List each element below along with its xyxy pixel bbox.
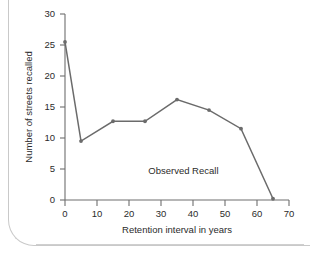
x-tick-label: 70	[284, 208, 295, 219]
data-point	[63, 40, 67, 44]
x-axis-tick-labels: 010203040506070	[62, 208, 294, 219]
y-tick-label: 10	[44, 132, 55, 143]
data-point	[271, 197, 275, 201]
data-point	[207, 108, 211, 112]
y-axis: 051015202530	[44, 8, 65, 205]
x-axis-title: Retention interval in years	[122, 224, 232, 235]
y-tick-label: 5	[50, 163, 55, 174]
x-tick-label: 30	[156, 208, 167, 219]
x-tick-label: 20	[124, 208, 135, 219]
x-axis-ticks	[65, 200, 289, 206]
data-point	[175, 98, 179, 102]
data-point	[143, 119, 147, 123]
y-tick-label: 15	[44, 101, 55, 112]
y-axis-title: Number of streets recalled	[23, 51, 34, 162]
y-tick-label: 0	[50, 194, 55, 205]
screenshot-root: 051015202530 010203040506070 Observed Re…	[0, 0, 310, 257]
chart-annotations: Observed Recall	[148, 165, 218, 176]
y-tick-label: 20	[44, 70, 55, 81]
chart-svg: 051015202530 010203040506070 Observed Re…	[0, 0, 310, 257]
x-axis: 010203040506070	[62, 200, 294, 219]
data-point	[239, 127, 243, 131]
y-tick-label: 30	[44, 8, 55, 19]
x-tick-label: 10	[92, 208, 103, 219]
y-tick-label: 25	[44, 39, 55, 50]
line-chart-figure: 051015202530 010203040506070 Observed Re…	[0, 0, 310, 257]
y-axis-tick-labels: 051015202530	[44, 8, 55, 205]
data-point	[79, 139, 83, 143]
series-annotation-label: Observed Recall	[148, 165, 218, 176]
data-point	[111, 119, 115, 123]
data-series-group	[63, 40, 275, 201]
x-tick-label: 50	[220, 208, 231, 219]
x-tick-label: 0	[62, 208, 67, 219]
x-tick-label: 40	[188, 208, 199, 219]
x-tick-label: 60	[252, 208, 263, 219]
